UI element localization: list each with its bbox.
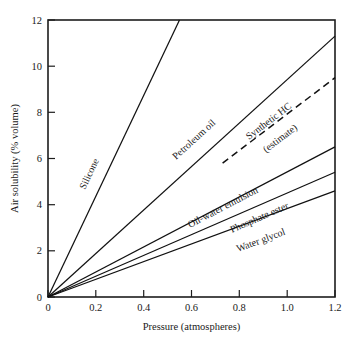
x-tick-marks — [48, 290, 335, 297]
y-tick-label: 4 — [37, 199, 43, 210]
y-tick-label: 12 — [32, 15, 43, 26]
x-tick-label: 0.4 — [137, 302, 151, 313]
y-tick-label: 2 — [37, 245, 42, 256]
x-tick-labels: 0 0.2 0.4 0.6 0.8 1.0 1.2 — [45, 302, 341, 313]
series-label-silicone: Silicone — [77, 156, 101, 191]
x-tick-label: 0.2 — [89, 302, 102, 313]
y-axis-title: Air solubility (% volume) — [9, 104, 21, 213]
x-axis-title: Pressure (atmospheres) — [143, 321, 241, 333]
x-tick-label: 0.6 — [185, 302, 198, 313]
y-tick-labels: 0 2 4 6 8 10 12 — [32, 15, 43, 303]
x-tick-label: 1.0 — [281, 302, 294, 313]
y-tick-label: 8 — [37, 107, 42, 118]
air-solubility-chart: 0 2 4 6 8 10 12 0 0.2 0.4 0.6 0.8 1.0 1.… — [0, 0, 357, 344]
x-tick-label: 1.2 — [328, 302, 341, 313]
chart-canvas: 0 2 4 6 8 10 12 0 0.2 0.4 0.6 0.8 1.0 1.… — [0, 0, 357, 344]
series-line-synthetic-hc — [223, 78, 335, 163]
y-tick-label: 6 — [37, 153, 42, 164]
series-line-phosphate-ester — [48, 172, 335, 297]
x-tick-label: 0 — [45, 302, 50, 313]
series-label-petroleum-oil: Petroleum oil — [170, 117, 218, 162]
y-tick-label: 0 — [37, 292, 42, 303]
y-tick-marks — [48, 20, 55, 297]
x-tick-label: 0.8 — [233, 302, 246, 313]
y-tick-label: 10 — [32, 61, 43, 72]
